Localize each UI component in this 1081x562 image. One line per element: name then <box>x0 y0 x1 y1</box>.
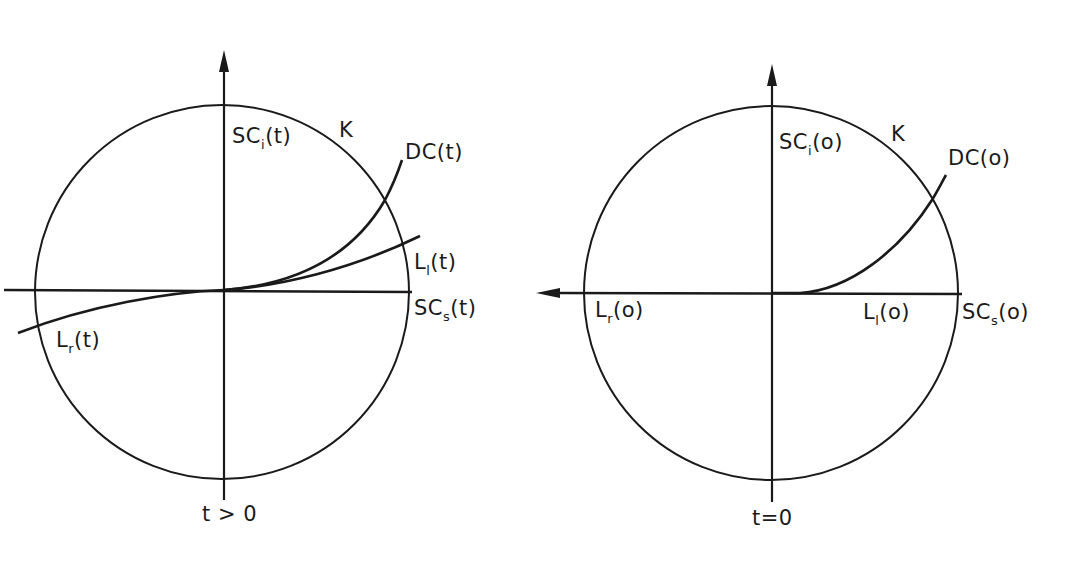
label-base: SC <box>232 124 261 148</box>
label-base: L <box>56 328 68 352</box>
label-base: L <box>595 298 607 322</box>
left-lr-curve <box>18 290 224 333</box>
left-dc-curve <box>224 160 402 290</box>
label-argument: (t) <box>74 328 100 352</box>
label-argument: (o) <box>613 298 644 322</box>
left-label-l-l: Ll(t) <box>414 250 456 278</box>
right-horizontal-axis <box>556 293 962 294</box>
label-base: L <box>863 300 875 324</box>
left-label-dc: DC(t) <box>405 140 463 164</box>
right-label-dc: DC(o) <box>948 146 1011 170</box>
right-condition-label: t=0 <box>752 506 793 530</box>
right-label-k: K <box>891 122 905 146</box>
right-label-l-r: Lr(o) <box>595 298 644 326</box>
label-argument: (o) <box>879 300 910 324</box>
label-base: SC <box>779 130 808 154</box>
left-panel <box>4 50 420 500</box>
right-label-l-l: Ll(o) <box>863 300 910 328</box>
left-condition-label: t > 0 <box>202 502 257 526</box>
right-axis-left-arrow-icon <box>536 288 560 298</box>
label-argument: (t) <box>265 124 291 148</box>
right-label-sc-i: SCi(o) <box>779 130 843 158</box>
label-argument: (t) <box>450 296 476 320</box>
left-label-l-r: Lr(t) <box>56 328 100 356</box>
right-axis-arrow-icon <box>767 64 777 86</box>
diagram-canvas <box>0 0 1081 562</box>
left-label-k: K <box>339 118 353 142</box>
label-base: L <box>414 250 426 274</box>
label-base: SC <box>962 300 991 324</box>
left-axis-arrow-icon <box>219 50 229 72</box>
label-argument: (o) <box>812 130 843 154</box>
left-label-sc-s: SCs(t) <box>414 296 476 324</box>
right-dc-curve <box>772 175 946 293</box>
left-label-sc-i: SCi(t) <box>232 124 291 152</box>
label-base: SC <box>414 296 443 320</box>
label-argument: (o) <box>998 300 1029 324</box>
label-argument: (t) <box>430 250 456 274</box>
right-label-sc-s: SCs(o) <box>962 300 1029 328</box>
